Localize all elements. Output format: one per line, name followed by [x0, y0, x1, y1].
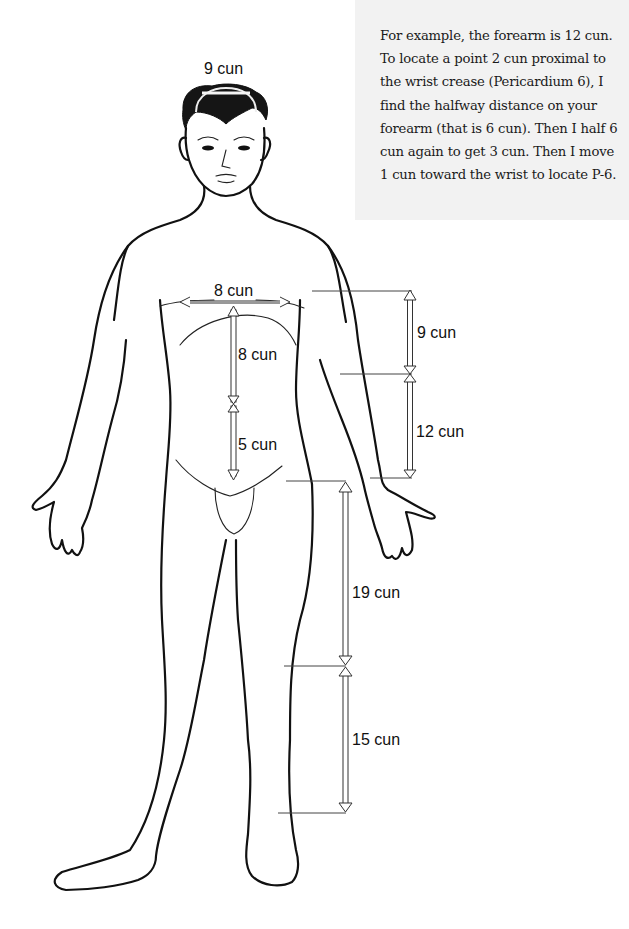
- example-note-text: For example, the forearm is 12 cun. To l…: [380, 24, 625, 186]
- head: 9 cun: [180, 60, 270, 196]
- label-forearm: 12 cun: [416, 423, 464, 440]
- label-sternum-to-navel: 8 cun: [238, 346, 277, 363]
- example-note-box: For example, the forearm is 12 cun. To l…: [355, 0, 629, 220]
- torso: [114, 186, 346, 534]
- label-thigh: 19 cun: [352, 584, 400, 601]
- label-chest-width: 8 cun: [214, 282, 253, 299]
- measurement-lines: 8 cun 8 cun 5 cun 9 cun 12 cun 19 cun: [180, 282, 464, 813]
- label-head-width: 9 cun: [204, 60, 243, 77]
- label-navel-to-pubis: 5 cun: [238, 436, 277, 453]
- label-upper-arm: 9 cun: [417, 324, 456, 341]
- label-lower-leg: 15 cun: [352, 731, 400, 748]
- legs: [55, 480, 313, 890]
